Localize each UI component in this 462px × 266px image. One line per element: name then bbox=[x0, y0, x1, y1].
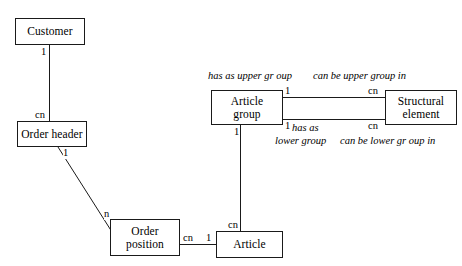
cardinality-articlegroup-lower-left: 1 bbox=[285, 121, 290, 132]
cardinality-orderheader-orderposition-start: 1 bbox=[63, 148, 68, 159]
relationship-label-has-as-lower-group-line2: lower group bbox=[275, 135, 326, 147]
cardinality-articlegroup-upper-right: cn bbox=[368, 86, 378, 97]
er-diagram-canvas: Customer Order header Order position Art… bbox=[0, 0, 462, 266]
connection-articlegroup-article bbox=[240, 125, 241, 231]
entity-order-header-label: Order header bbox=[18, 128, 86, 141]
relationship-label-has-as-lower-group-line1: has as bbox=[292, 122, 319, 134]
entity-order-position-label-line2: position bbox=[123, 238, 167, 251]
cardinality-articlegroup-lower-right: cn bbox=[368, 121, 378, 132]
entity-structural-element[interactable]: Structural element bbox=[385, 90, 457, 125]
entity-article-group-label-line2: group bbox=[230, 108, 263, 121]
cardinality-articlegroup-article-bottom: cn bbox=[228, 220, 238, 231]
relationship-label-can-be-lower-group-in: can be lower gr oup in bbox=[340, 135, 435, 147]
entity-article-label: Article bbox=[230, 238, 269, 251]
entity-structural-element-label-line2: element bbox=[399, 108, 442, 121]
entity-order-header[interactable]: Order header bbox=[17, 121, 87, 147]
relationship-label-has-as-upper-group: has as upper gr oup bbox=[208, 70, 292, 82]
cardinality-articlegroup-upper-left: 1 bbox=[285, 86, 290, 97]
cardinality-articlegroup-article-top: 1 bbox=[234, 127, 239, 138]
cardinality-orderposition-article-right: 1 bbox=[206, 233, 211, 244]
entity-order-position[interactable]: Order position bbox=[110, 219, 180, 256]
entity-article-group-label-line1: Article bbox=[228, 95, 267, 108]
entity-article[interactable]: Article bbox=[216, 231, 283, 258]
connection-orderposition-article bbox=[180, 244, 216, 245]
cardinality-orderposition-article-left: cn bbox=[183, 233, 193, 244]
entity-article-group[interactable]: Article group bbox=[211, 90, 283, 125]
cardinality-customer-orderheader-top: 1 bbox=[41, 47, 46, 58]
entity-order-position-label-line1: Order bbox=[128, 225, 161, 238]
entity-customer[interactable]: Customer bbox=[15, 18, 85, 45]
entity-customer-label: Customer bbox=[24, 25, 76, 38]
connection-articlegroup-structuralelement-upper bbox=[283, 97, 385, 98]
entity-structural-element-label-line1: Structural bbox=[395, 95, 447, 108]
relationship-label-can-be-upper-group-in: can be upper group in bbox=[313, 70, 406, 82]
cardinality-orderheader-orderposition-end: n bbox=[104, 209, 109, 220]
cardinality-customer-orderheader-bottom: cn bbox=[35, 110, 45, 121]
